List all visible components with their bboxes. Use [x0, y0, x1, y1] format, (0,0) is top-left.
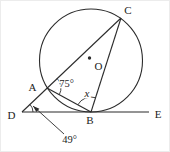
center-dot	[88, 56, 91, 59]
angle-label-ADB: 49°	[62, 134, 77, 145]
point-label-D: D	[8, 109, 16, 121]
diagram-svg: AABBCCDDEEOO75°75°xx49°49°	[1, 1, 170, 152]
point-label-B: B	[86, 114, 93, 126]
point-label-C: C	[124, 4, 131, 16]
angle-arc-D	[30, 104, 33, 112]
point-label-E: E	[155, 108, 162, 120]
point-label-A: A	[29, 81, 37, 93]
center-label-O: O	[95, 60, 103, 72]
geometry-figure: AABBCCDDEEOO75°75°xx49°49°	[0, 0, 170, 152]
angle-label-ABC: x	[84, 87, 90, 99]
angle-label-CAB: 75°	[59, 78, 74, 89]
